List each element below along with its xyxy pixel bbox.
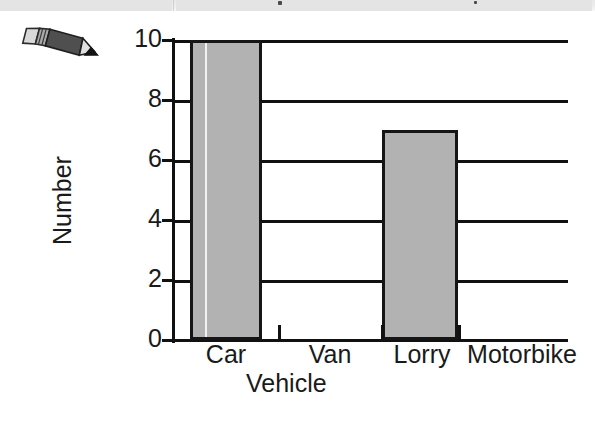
y-tick-label-0: 0 — [122, 326, 162, 351]
plot-area — [172, 40, 568, 340]
y-tick-label-4: 4 — [122, 206, 162, 231]
bar-car[interactable] — [190, 40, 262, 340]
bar-car-highlight — [205, 43, 207, 337]
y-tick-label-10: 10 — [122, 26, 162, 51]
y-tick-label-6: 6 — [122, 146, 162, 171]
y-tick-label-8: 8 — [122, 86, 162, 111]
x-tick-mark-2 — [381, 325, 384, 341]
x-tick-mark-3 — [458, 325, 461, 341]
bar-chart: Number Vehicle 10 8 6 4 2 0 — [0, 0, 595, 426]
y-tick-label-2: 2 — [122, 266, 162, 291]
y-axis-tick-labels: 10 8 6 4 2 0 — [118, 0, 162, 426]
y-axis-title: Number — [48, 121, 77, 281]
x-category-label-van: Van — [282, 340, 378, 369]
x-axis-title: Vehicle — [246, 369, 327, 398]
x-category-label-car: Car — [178, 340, 274, 369]
x-category-label-motorbike: Motorbike — [452, 340, 592, 369]
x-tick-mark-0 — [172, 325, 175, 341]
bar-lorry[interactable] — [382, 130, 458, 340]
x-tick-mark-1 — [278, 325, 281, 341]
